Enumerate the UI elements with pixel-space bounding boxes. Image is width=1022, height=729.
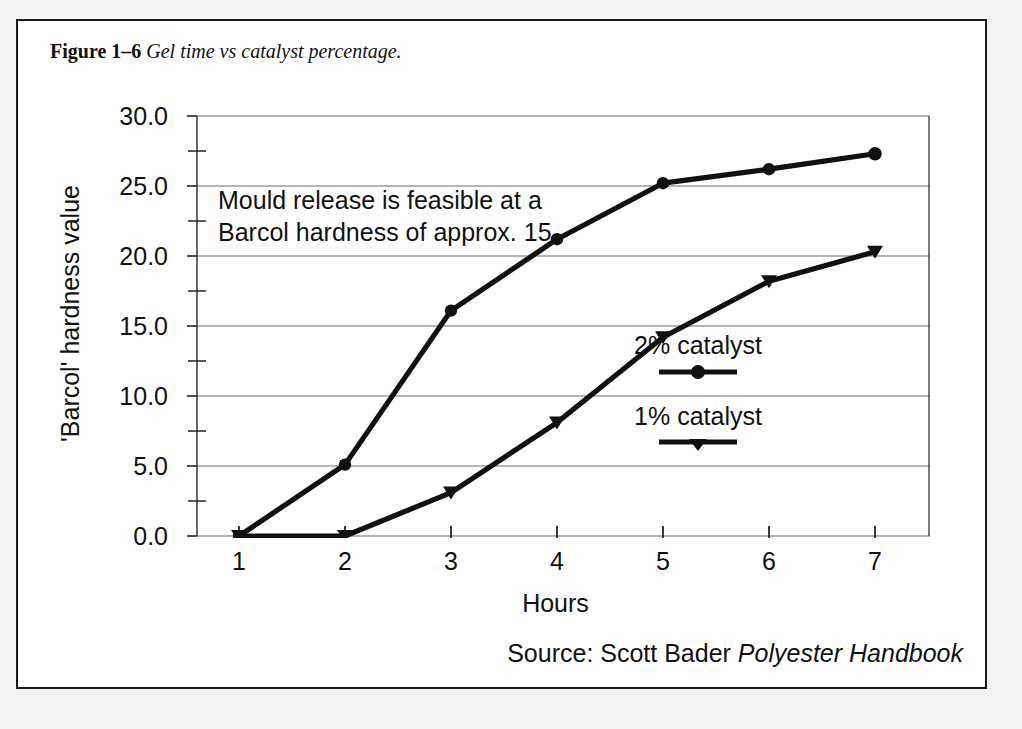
x-tick-label: 6	[749, 549, 789, 574]
x-axis-title: Hours	[181, 589, 930, 618]
source-title: Polyester Handbook	[738, 639, 963, 667]
source-prefix: Source: Scott Bader	[507, 639, 738, 667]
x-tick-label: 2	[325, 549, 365, 574]
x-tick-label: 7	[855, 549, 895, 574]
source-note: Source: Scott Bader Polyester Handbook	[507, 639, 963, 668]
x-tick-label: 3	[431, 549, 471, 574]
figure-frame: Figure 1–6 Gel time vs catalyst percenta…	[16, 19, 987, 689]
x-tick-label: 5	[643, 549, 683, 574]
x-tick-label: 1	[219, 549, 259, 574]
page-canvas: Figure 1–6 Gel time vs catalyst percenta…	[0, 0, 1022, 729]
x-tick-label: 4	[537, 549, 577, 574]
